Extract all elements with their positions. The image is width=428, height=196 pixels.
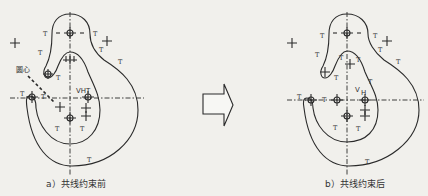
center-annotation: 圆心 [16,66,30,74]
svg-text:T: T [118,58,123,66]
svg-text:T: T [297,93,302,101]
svg-text:T: T [356,56,361,64]
svg-text:T: T [322,96,327,104]
panel-a-sketch: T T T T T T T T T T T VHT 圆心 [10,12,144,175]
cross-markers [287,27,392,122]
svg-text:T: T [80,125,85,133]
vh-label: VHT [76,87,91,95]
svg-text:T: T [339,54,344,62]
svg-text:T: T [356,125,361,133]
svg-text:T: T [55,125,60,133]
svg-text:T: T [43,30,48,38]
svg-text:T: T [41,93,46,101]
svg-text:T: T [365,158,370,166]
panel-b-sketch: T T T T T T T T T T T T T T V H [287,12,424,175]
vh-label: V [355,86,360,94]
svg-text:T: T [20,90,25,98]
svg-text:T: T [320,32,325,40]
svg-text:T: T [315,51,320,59]
svg-text:T: T [378,46,383,54]
svg-text:T: T [368,78,373,86]
constraint-labels: T T T T T T T T T T T T T T [297,32,401,166]
cross-markers [10,27,112,124]
svg-text:T: T [56,74,61,82]
svg-text:T: T [99,46,104,54]
svg-text:T: T [93,30,98,38]
svg-text:T: T [333,124,338,132]
svg-text:T: T [373,32,378,40]
svg-text:T: T [334,74,339,82]
vh-subscript: H [361,89,366,97]
caption-after: b）共线约束后 [325,177,385,190]
diagram-canvas: T T T T T T T T T T T VHT 圆心 [0,0,428,196]
caption-before: a）共线约束前 [46,177,106,190]
transform-arrow-icon [203,84,233,126]
svg-text:T: T [87,156,92,164]
svg-text:T: T [396,58,401,66]
svg-text:T: T [38,49,43,57]
